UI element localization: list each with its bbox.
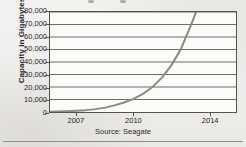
y-axis-tick-mark xyxy=(45,113,49,114)
x-axis-tick-mark xyxy=(133,113,134,116)
y-axis-tick-label: 80,000 xyxy=(13,7,47,15)
chart-page: Capacity in Gigabytes 80,00070,00060,000… xyxy=(0,0,246,147)
y-axis-tick-label: 20,000 xyxy=(13,84,47,92)
plot-area xyxy=(49,11,237,113)
y-axis-tick-label: 40,000 xyxy=(13,58,47,66)
y-axis-tick-label: 70,000 xyxy=(13,20,47,28)
x-axis-tick-mark xyxy=(210,113,211,116)
capacity-growth-curve xyxy=(50,12,236,112)
y-axis-tick-label: 60,000 xyxy=(13,33,47,41)
cropped-title-remnant-right xyxy=(120,0,126,3)
y-axis-tick-label: 10,000 xyxy=(13,96,47,104)
x-axis-tick-label: 2010 xyxy=(113,116,153,125)
x-axis-tick-label: 2007 xyxy=(56,116,96,125)
x-axis-tick-mark xyxy=(76,113,77,116)
source-note: Source: Seagate xyxy=(0,127,246,136)
cropped-title-remnant-left xyxy=(88,0,94,3)
bottom-divider xyxy=(3,141,243,142)
y-axis-tick-label: 30,000 xyxy=(13,71,47,79)
y-axis-tick-label: 0 xyxy=(13,109,47,117)
y-axis-tick-label: 50,000 xyxy=(13,45,47,53)
x-axis-tick-label: 2014 xyxy=(190,116,230,125)
